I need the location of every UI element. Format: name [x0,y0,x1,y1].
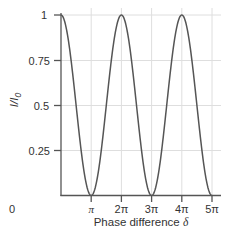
y-tick-label: 0.75 [29,55,50,67]
y-tick-label: 0 [9,203,15,215]
x-tick-label: 3π [145,203,159,215]
x-axis-title: Phase difference δ [94,216,189,228]
x-tick-label: 2π [115,203,129,215]
y-tick-label: 1 [41,9,47,21]
x-tick-label: 5π [205,203,219,215]
x-tick-label: π [88,203,94,215]
y-tick-label: 0.5 [34,100,49,112]
interference-chart: 1 0.75 0.5 0.25 0 π 2π 3π 4π 5π Phase di… [0,0,232,242]
axes [54,13,221,202]
delta-symbol: δ [183,216,189,228]
y-tick-label: 0.25 [29,145,50,157]
x-tick-labels: π 2π 3π 4π 5π [88,203,219,215]
y-axis-title: I/I0 [8,93,23,108]
y-tick-labels: 1 0.75 0.5 0.25 0 [9,9,50,215]
x-axis-title-text: Phase difference [94,216,183,228]
x-tick-label: 4π [175,203,189,215]
